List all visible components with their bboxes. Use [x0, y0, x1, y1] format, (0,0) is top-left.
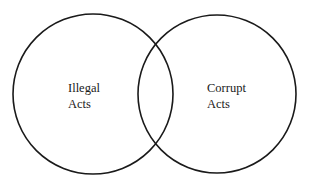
corrupt-acts-label-line2: Acts [207, 96, 246, 112]
venn-diagram: Illegal Acts Corrupt Acts [0, 0, 310, 186]
illegal-acts-label: Illegal Acts [68, 80, 100, 112]
illegal-acts-label-line1: Illegal [68, 80, 100, 96]
corrupt-acts-label-line1: Corrupt [207, 80, 246, 96]
corrupt-acts-label: Corrupt Acts [207, 80, 246, 112]
illegal-acts-label-line2: Acts [68, 96, 100, 112]
venn-diagram-graphic [0, 0, 310, 186]
